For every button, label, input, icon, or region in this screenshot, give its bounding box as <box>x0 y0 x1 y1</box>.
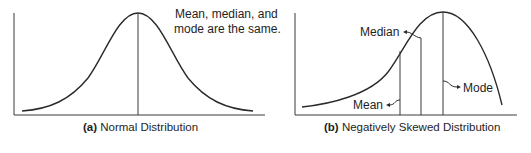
median-label: Median <box>360 25 399 39</box>
panel-skewed: Median Mean Mode (b) Negatively Skewed D… <box>295 12 517 133</box>
median-arrow-head <box>403 30 407 34</box>
mode-arrow-head <box>457 85 461 89</box>
caption-b-prefix: (b) <box>324 121 339 133</box>
caption-a-prefix: (a) <box>83 121 97 133</box>
caption-b-text: Negatively Skewed Distribution <box>339 121 501 133</box>
mean-label: Mean <box>353 98 383 112</box>
annotation-line-2: mode are the same. <box>174 22 281 36</box>
mode-arrow <box>443 81 457 87</box>
annotation-line-1: Mean, median, and <box>175 7 278 21</box>
caption-a-text: Normal Distribution <box>97 121 198 133</box>
mean-arrow <box>389 100 400 105</box>
distribution-diagram: Mean, median, and mode are the same. (a)… <box>0 0 531 153</box>
mode-label: Mode <box>463 81 493 95</box>
mean-arrow-head <box>386 103 390 107</box>
caption-b: (b) Negatively Skewed Distribution <box>324 121 500 133</box>
caption-a: (a) Normal Distribution <box>83 121 198 133</box>
panel-normal: Mean, median, and mode are the same. (a)… <box>14 7 281 133</box>
